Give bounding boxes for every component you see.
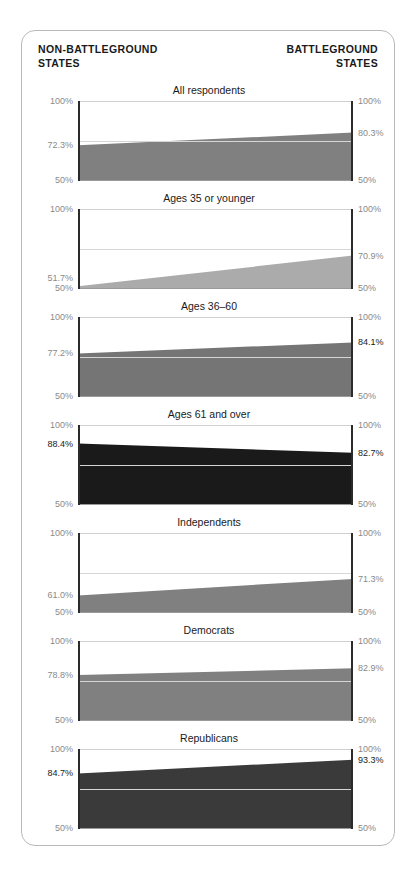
- y-axis-left-ages-36-60: [78, 317, 80, 397]
- area-fill-all-respondents: [78, 133, 353, 181]
- axis-label-left-100-democrats: 100%: [50, 636, 73, 646]
- axis-label-left-50-republicans: 50%: [55, 823, 73, 833]
- plot-area-ages-35-or-younger: 100%100%50%50%51.7%70.9%: [78, 209, 353, 289]
- y-axis-right-ages-36-60: [351, 317, 353, 397]
- y-axis-right-ages-35-or-younger: [351, 209, 353, 289]
- plot-canvas-ages-36-60: [78, 317, 353, 397]
- y-axis-right-ages-61-and-over: [351, 425, 353, 505]
- header-left-nonbattleground: NON-BATTLEGROUND STATES: [38, 43, 158, 70]
- value-label-left-ages-36-60: 77.2%: [47, 348, 73, 358]
- axis-label-right-100-all-respondents: 100%: [358, 96, 381, 106]
- gridline-100-republicans: [78, 749, 353, 750]
- plot-area-democrats: 100%100%50%50%78.8%82.9%: [78, 641, 353, 721]
- axis-label-right-50-ages-35-or-younger: 50%: [358, 283, 376, 293]
- plot-canvas-ages-35-or-younger: [78, 209, 353, 289]
- chart-ages-35-or-younger: Ages 35 or younger100%100%50%50%51.7%70.…: [22, 191, 396, 299]
- area-fill-republicans: [78, 760, 353, 829]
- chart-all-respondents: All respondents100%100%50%50%72.3%80.3%: [22, 83, 396, 191]
- gridline-50-ages-36-60: [78, 396, 353, 397]
- y-axis-left-ages-61-and-over: [78, 425, 80, 505]
- chart-title-all-respondents: All respondents: [22, 83, 396, 97]
- value-label-right-ages-36-60: 84.1%: [358, 337, 384, 347]
- plot-area-ages-61-and-over: 100%100%50%50%88.4%82.7%: [78, 425, 353, 505]
- plot-area-independents: 100%100%50%50%61.0%71.3%: [78, 533, 353, 613]
- chart-card: NON-BATTLEGROUND STATES BATTLEGROUND STA…: [21, 30, 395, 846]
- chart-ages-61-and-over: Ages 61 and over100%100%50%50%88.4%82.7%: [22, 407, 396, 515]
- chart-republicans: Republicans100%100%50%50%84.7%93.3%: [22, 731, 396, 839]
- axis-label-right-50-ages-61-and-over: 50%: [358, 499, 376, 509]
- axis-label-right-100-republicans: 100%: [358, 744, 381, 754]
- value-label-left-independents: 61.0%: [47, 590, 73, 600]
- axis-label-right-100-ages-35-or-younger: 100%: [358, 204, 381, 214]
- value-label-right-republicans: 93.3%: [358, 755, 384, 765]
- value-label-right-ages-61-and-over: 82.7%: [358, 448, 384, 458]
- gridline-75-ages-35-or-younger: [78, 249, 353, 250]
- chart-ages-36-60: Ages 36–60100%100%50%50%77.2%84.1%: [22, 299, 396, 407]
- gridline-75-independents: [78, 573, 353, 574]
- chart-title-democrats: Democrats: [22, 623, 396, 637]
- area-fill-ages-61-and-over: [78, 444, 353, 505]
- gridline-75-all-respondents: [78, 141, 353, 142]
- axis-label-left-100-ages-35-or-younger: 100%: [50, 204, 73, 214]
- area-fill-democrats: [78, 668, 353, 721]
- plot-area-republicans: 100%100%50%50%84.7%93.3%: [78, 749, 353, 829]
- axis-label-right-100-democrats: 100%: [358, 636, 381, 646]
- gridline-75-democrats: [78, 681, 353, 682]
- axis-label-left-50-ages-36-60: 50%: [55, 391, 73, 401]
- header-right-line2: STATES: [287, 57, 379, 71]
- axis-label-left-100-ages-36-60: 100%: [50, 312, 73, 322]
- chart-title-ages-61-and-over: Ages 61 and over: [22, 407, 396, 421]
- y-axis-left-democrats: [78, 641, 80, 721]
- value-label-left-ages-61-and-over: 88.4%: [47, 439, 73, 449]
- gridline-50-republicans: [78, 828, 353, 829]
- value-label-right-independents: 71.3%: [358, 574, 384, 584]
- chart-democrats: Democrats100%100%50%50%78.8%82.9%: [22, 623, 396, 731]
- plot-canvas-ages-61-and-over: [78, 425, 353, 505]
- y-axis-right-republicans: [351, 749, 353, 829]
- page-root: NON-BATTLEGROUND STATES BATTLEGROUND STA…: [0, 0, 418, 878]
- axis-label-left-100-ages-61-and-over: 100%: [50, 420, 73, 430]
- gridline-50-democrats: [78, 720, 353, 721]
- plot-canvas-all-respondents: [78, 101, 353, 181]
- gridline-100-democrats: [78, 641, 353, 642]
- y-axis-right-all-respondents: [351, 101, 353, 181]
- header-right-battleground: BATTLEGROUND STATES: [287, 43, 379, 70]
- y-axis-left-all-respondents: [78, 101, 80, 181]
- gridline-75-ages-61-and-over: [78, 465, 353, 466]
- value-label-right-all-respondents: 80.3%: [358, 128, 384, 138]
- axis-label-left-50-independents: 50%: [55, 607, 73, 617]
- plot-canvas-democrats: [78, 641, 353, 721]
- area-fill-ages-35-or-younger: [78, 256, 353, 289]
- axis-label-right-100-ages-36-60: 100%: [358, 312, 381, 322]
- gridline-100-ages-36-60: [78, 317, 353, 318]
- axis-label-left-100-all-respondents: 100%: [50, 96, 73, 106]
- header-right-line1: BATTLEGROUND: [287, 43, 379, 57]
- value-label-left-ages-35-or-younger: 51.7%: [47, 273, 73, 283]
- axis-label-right-50-all-respondents: 50%: [358, 175, 376, 185]
- y-axis-right-independents: [351, 533, 353, 613]
- gridline-50-independents: [78, 612, 353, 613]
- axis-label-right-50-republicans: 50%: [358, 823, 376, 833]
- gridline-75-republicans: [78, 789, 353, 790]
- axis-label-right-50-independents: 50%: [358, 607, 376, 617]
- axis-label-left-100-republicans: 100%: [50, 744, 73, 754]
- header-left-line2: STATES: [38, 57, 158, 71]
- plot-canvas-republicans: [78, 749, 353, 829]
- area-fill-independents: [78, 579, 353, 613]
- axis-label-left-50-ages-35-or-younger: 50%: [55, 283, 73, 293]
- axis-label-left-50-ages-61-and-over: 50%: [55, 499, 73, 509]
- small-multiples-container: All respondents100%100%50%50%72.3%80.3%A…: [22, 83, 396, 839]
- y-axis-left-republicans: [78, 749, 80, 829]
- axis-label-left-50-democrats: 50%: [55, 715, 73, 725]
- panel-header: NON-BATTLEGROUND STATES BATTLEGROUND STA…: [38, 43, 378, 77]
- y-axis-right-democrats: [351, 641, 353, 721]
- y-axis-left-independents: [78, 533, 80, 613]
- value-label-right-ages-35-or-younger: 70.9%: [358, 251, 384, 261]
- gridline-100-ages-35-or-younger: [78, 209, 353, 210]
- axis-label-right-100-independents: 100%: [358, 528, 381, 538]
- plot-canvas-independents: [78, 533, 353, 613]
- value-label-right-democrats: 82.9%: [358, 663, 384, 673]
- plot-area-all-respondents: 100%100%50%50%72.3%80.3%: [78, 101, 353, 181]
- gridline-100-all-respondents: [78, 101, 353, 102]
- gridline-75-ages-36-60: [78, 357, 353, 358]
